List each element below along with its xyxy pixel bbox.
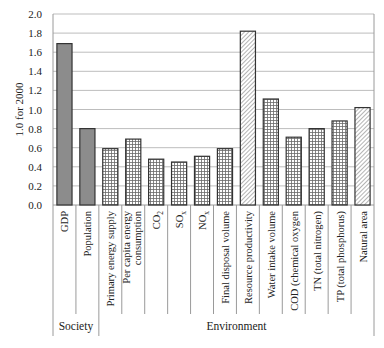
bar-chart: 1.0 for 2000 0.00.20.40.60.81.01.21.41.6… xyxy=(0,0,384,348)
category-label: Population xyxy=(82,210,93,256)
bar-gdp xyxy=(57,44,72,205)
svg-text:CO2: CO2 xyxy=(151,211,165,230)
svg-text:TN (total nitrogen): TN (total nitrogen) xyxy=(312,211,324,291)
svg-text:consumption: consumption xyxy=(132,210,143,265)
bar-tp-total-phosphorus- xyxy=(332,121,347,205)
bars xyxy=(57,31,370,205)
y-axis-label: 1.0 for 2000 xyxy=(13,82,25,137)
svg-text:SOx: SOx xyxy=(174,211,188,228)
bar-primary-energy-supply xyxy=(103,149,118,205)
svg-text:NOx: NOx xyxy=(197,211,211,230)
svg-text:Primary energy supply: Primary energy supply xyxy=(105,210,116,306)
svg-text:Water intake volume: Water intake volume xyxy=(266,211,277,299)
category-label: COD (chemical oxygen xyxy=(289,210,301,310)
category-label: NOx xyxy=(197,211,211,230)
category-label: CO2 xyxy=(151,211,165,230)
category-labels: GDPPopulationPrimary energy supplyPer ca… xyxy=(59,205,368,336)
bar-natural-area xyxy=(355,108,370,205)
y-tick-label: 0.4 xyxy=(28,161,42,173)
svg-text:Final disposal volume: Final disposal volume xyxy=(220,211,231,304)
y-tick-label: 1.0 xyxy=(28,104,42,116)
y-tick-labels: 0.00.20.40.60.81.01.21.41.61.82.0 xyxy=(28,8,42,211)
svg-text:Per capita energy: Per capita energy xyxy=(121,210,132,283)
bar-cod-chemical-oxygen xyxy=(286,137,301,205)
svg-text:Natural area: Natural area xyxy=(358,211,369,263)
category-label: Natural area xyxy=(358,211,369,263)
category-label: Resource productivity xyxy=(243,210,254,304)
group-labels: SocietyEnvironment xyxy=(59,320,268,333)
group-label-society: Society xyxy=(59,320,94,333)
svg-text:COD (chemical oxygen: COD (chemical oxygen xyxy=(289,210,301,310)
y-tick-label: 0.0 xyxy=(28,199,42,211)
y-tick-label: 1.8 xyxy=(28,27,42,39)
svg-text:TP (total phosphorus): TP (total phosphorus) xyxy=(335,211,347,303)
bar-per-capita-energy-consumption xyxy=(126,139,141,205)
bar-final-disposal-volume xyxy=(217,149,232,205)
category-label: TP (total phosphorus) xyxy=(335,211,347,303)
category-label: Primary energy supply xyxy=(105,210,116,306)
category-label: Final disposal volume xyxy=(220,211,231,304)
y-tick-label: 0.2 xyxy=(28,180,42,192)
bar-sox xyxy=(172,162,187,205)
svg-text:GDP: GDP xyxy=(59,211,70,232)
category-label: SOx xyxy=(174,211,188,228)
category-label: GDP xyxy=(59,211,70,232)
bar-resource-productivity xyxy=(240,31,255,205)
svg-text:Resource productivity: Resource productivity xyxy=(243,210,254,304)
y-axis-title: 1.0 for 2000 xyxy=(13,82,25,137)
y-tick-label: 1.2 xyxy=(28,84,42,96)
category-label: Per capita energyconsumption xyxy=(121,210,143,283)
y-tick-label: 0.8 xyxy=(28,123,42,135)
bar-population xyxy=(80,129,95,205)
bar-tn-total-nitrogen- xyxy=(309,129,324,205)
bar-water-intake-volume xyxy=(263,99,278,205)
category-label: Water intake volume xyxy=(266,211,277,299)
y-tick-label: 1.6 xyxy=(28,46,42,58)
y-tick-label: 0.6 xyxy=(28,142,42,154)
svg-text:Population: Population xyxy=(82,210,93,256)
y-tick-label: 2.0 xyxy=(28,8,42,20)
group-label-environment: Environment xyxy=(206,320,267,332)
bar-co2 xyxy=(149,159,164,205)
y-tick-label: 1.4 xyxy=(28,65,42,77)
category-label: TN (total nitrogen) xyxy=(312,211,324,291)
bar-nox xyxy=(194,156,209,205)
